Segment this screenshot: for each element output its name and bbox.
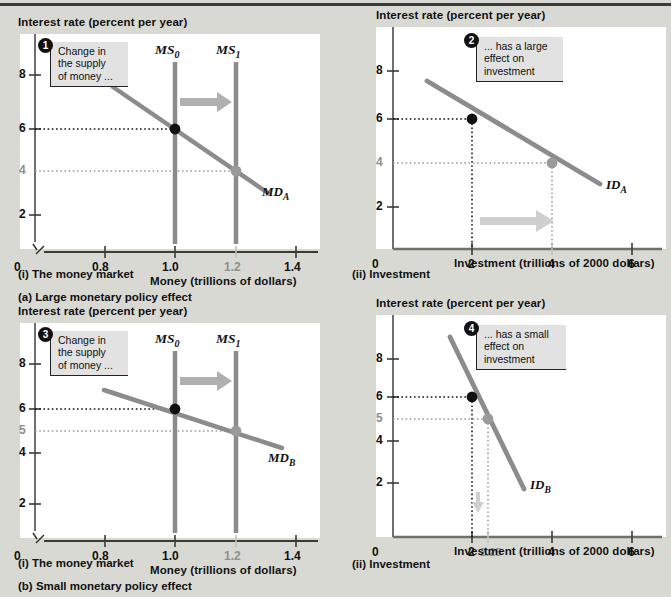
curve-label-ms0: MS0	[155, 42, 180, 60]
x-tick-label: 1.2	[224, 549, 241, 563]
curve-label-ms1: MS1	[216, 331, 241, 349]
curve-label-md-b: MDB	[268, 450, 295, 468]
x-axis-title: Money (trillions of dollars)	[150, 275, 297, 287]
y-tick-label: 6	[19, 121, 26, 135]
x-tick-label: 1.0	[162, 549, 179, 563]
x-tick-label: 1.2	[224, 260, 241, 274]
y-tick-label: 4	[376, 155, 383, 169]
point-initial-equilibrium	[170, 404, 181, 415]
axis-break-icon	[33, 244, 44, 254]
x-axis-title: Money (trillions of dollars)	[150, 564, 297, 576]
figure-root: Interest rate (percent per year)	[0, 0, 671, 597]
panel-b-ii: Interest rate (percent per year) 8	[340, 297, 671, 579]
point-new-equilibrium	[231, 426, 242, 437]
group-caption-b: (b) Small monetary policy effect	[18, 580, 192, 592]
curve-label-ms1: MS1	[216, 42, 241, 60]
y-tick-label: 6	[376, 111, 383, 125]
panel-caption: (i) The money market	[18, 557, 134, 569]
panel-a-ii: Interest rate (percent per year)	[340, 9, 671, 291]
callout-4: ... has a small effect on investment	[476, 325, 566, 370]
badge-4: 4	[464, 321, 479, 336]
x-axis-title: Investment (trillions of 2000 dollars)	[454, 545, 655, 557]
callout-2: ... has a large effect on investment	[476, 37, 563, 82]
y-tick-label: 6	[376, 389, 383, 403]
y-tick-label: 2	[376, 199, 383, 213]
effect-arrow	[472, 492, 484, 513]
curve-label-md-a: MDA	[262, 184, 289, 202]
panel-a-i: Interest rate (percent per year)	[0, 16, 340, 291]
y-tick-label: 5	[19, 423, 26, 437]
curve-label-id-b: IDB	[530, 477, 551, 495]
y-tick-label: 4	[376, 433, 383, 447]
y-tick-label: 8	[376, 63, 383, 77]
panel-caption: (ii) Investment	[352, 268, 430, 280]
x-tick-label: 1.4	[284, 549, 301, 563]
curve-label-id-a: IDA	[606, 177, 627, 195]
axis-break-icon	[33, 533, 44, 543]
panel-caption: (i) The money market	[18, 268, 134, 280]
y-tick-label: 2	[19, 496, 26, 510]
point-new-equilibrium	[231, 166, 242, 177]
badge-1: 1	[38, 38, 53, 53]
shift-arrow	[180, 371, 232, 391]
curve-md-b	[104, 390, 282, 448]
point-new-investment	[483, 414, 494, 425]
effect-arrow	[480, 210, 554, 232]
y-tick-label: 4	[19, 445, 26, 459]
curve-label-ms0: MS0	[155, 331, 180, 349]
y-tick-label: 2	[19, 207, 26, 221]
panel-b-i: Interest rate (percent per year)	[0, 305, 340, 580]
badge-3: 3	[38, 327, 53, 342]
point-initial-investment	[467, 114, 478, 125]
group-caption-a: (a) Large monetary policy effect	[18, 291, 192, 303]
x-tick-label: 1.0	[162, 260, 179, 274]
x-tick-label: 1.4	[284, 260, 301, 274]
y-tick-label: 4	[19, 163, 26, 177]
y-tick-label: 8	[376, 351, 383, 365]
callout-1: Change in the supply of money ...	[50, 42, 128, 87]
top-rule	[0, 3, 671, 6]
y-tick-label: 5	[376, 411, 383, 425]
point-initial-equilibrium	[170, 124, 181, 135]
curve-id-a	[427, 81, 600, 184]
point-initial-investment	[467, 392, 478, 403]
y-tick-label: 8	[19, 67, 26, 81]
x-axis-title: Investment (trillions of 2000 dollars)	[454, 257, 655, 269]
y-tick-label-zero: 0	[372, 545, 379, 559]
y-tick-label: 8	[19, 356, 26, 370]
point-new-investment	[547, 158, 558, 169]
y-tick-label: 6	[19, 401, 26, 415]
badge-2: 2	[464, 33, 479, 48]
panel-caption: (ii) Investment	[352, 558, 430, 570]
shift-arrow	[180, 92, 232, 112]
callout-3: Change in the supply of money ...	[50, 331, 128, 376]
y-tick-label: 2	[376, 475, 383, 489]
